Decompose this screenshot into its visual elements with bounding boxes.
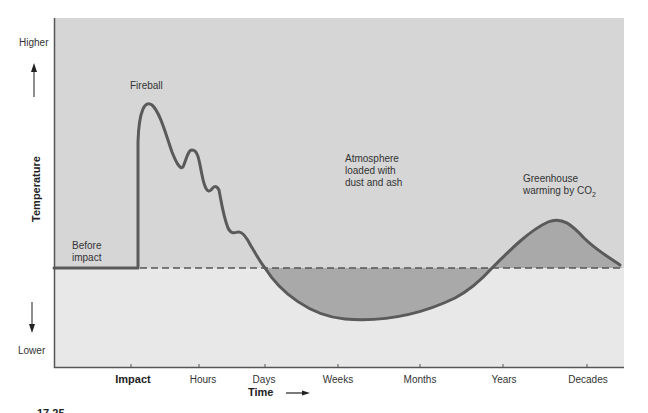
chart-canvas <box>0 0 648 413</box>
arrow-right-icon <box>286 391 310 396</box>
x-tick-days: Days <box>229 374 299 385</box>
figure-caption: 17.25 <box>37 406 65 413</box>
x-tick-impact: Impact <box>98 373 168 385</box>
annotation-greenhouse: Greenhouse warming by CO2 <box>523 173 596 201</box>
x-axis-title: Time <box>248 386 273 398</box>
y-label-higher: Higher <box>19 37 48 48</box>
annotation-fireball: Fireball <box>130 80 163 92</box>
x-tick-hours: Hours <box>168 374 238 385</box>
x-tick-years: Years <box>469 374 539 385</box>
y-label-lower: Lower <box>18 345 45 356</box>
arrow-down-icon <box>29 302 35 333</box>
x-tick-decades: Decades <box>553 374 623 385</box>
y-axis-title: Temperature <box>30 149 42 229</box>
x-tick-months: Months <box>385 374 455 385</box>
annotation-before-impact: Before impact <box>72 240 101 264</box>
arrow-up-icon <box>31 63 37 97</box>
annotation-dust-ash: Atmosphere loaded with dust and ash <box>345 153 402 189</box>
x-tick-weeks: Weeks <box>303 374 373 385</box>
